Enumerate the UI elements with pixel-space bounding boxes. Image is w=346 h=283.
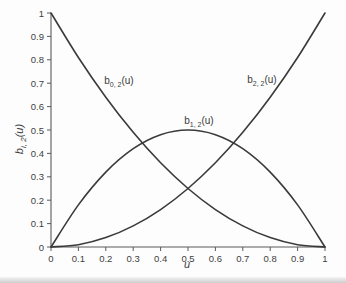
y-tick-label: 0.3 xyxy=(31,171,44,182)
x-tick-label: 0.7 xyxy=(236,253,249,264)
curve-label-arg: (u) xyxy=(201,115,213,126)
x-tick-label: 0.2 xyxy=(99,253,112,264)
y-tick-label: 0.9 xyxy=(31,31,44,42)
curve-label-b1-2: b1, 2(u) xyxy=(184,116,213,128)
x-tick-label: 0.1 xyxy=(72,253,85,264)
bernstein-basis-functions-figure: 00.10.20.30.40.50.60.70.80.9100.10.20.30… xyxy=(0,0,346,283)
y-tick-label: 0.4 xyxy=(31,148,44,159)
curve-label-arg: (u) xyxy=(121,75,133,86)
y-tick-label: 1 xyxy=(39,8,44,19)
y-tick-label: 0.2 xyxy=(31,195,44,206)
curve-label-subscript: 2, 2 xyxy=(253,80,265,87)
x-axis-title: u xyxy=(184,259,190,270)
x-tick-label: 0.6 xyxy=(209,253,222,264)
y-tick-label: 0.1 xyxy=(31,218,44,229)
y-tick-label: 0 xyxy=(39,242,44,253)
y-axis-title: bi, 2(u) xyxy=(14,124,28,154)
y-tick-label: 0.6 xyxy=(31,101,44,112)
y-axis-title-subscript: i, 2 xyxy=(19,137,28,148)
y-tick-label: 0.8 xyxy=(31,54,44,65)
x-tick-label: 0.8 xyxy=(264,253,277,264)
x-axis-title-text: u xyxy=(184,258,190,270)
curve-label-subscript: 0, 2 xyxy=(110,81,122,88)
curve-label-b0-2: b0, 2(u) xyxy=(104,76,133,88)
curve-label-arg: (u) xyxy=(264,74,276,85)
x-tick-label: 0.3 xyxy=(127,253,140,264)
y-tick-label: 0.5 xyxy=(31,125,44,136)
y-tick-label: 0.7 xyxy=(31,78,44,89)
scan-edge-artifact xyxy=(0,277,346,283)
y-axis-title-base: b xyxy=(13,148,25,154)
plot-canvas: 00.10.20.30.40.50.60.70.80.9100.10.20.30… xyxy=(0,0,346,283)
curve-label-subscript: 1, 2 xyxy=(190,121,202,128)
x-tick-label: 0 xyxy=(48,253,53,264)
curve-label-b2-2: b2, 2(u) xyxy=(247,75,276,87)
x-tick-label: 1 xyxy=(322,253,327,264)
y-axis-title-arg: (u) xyxy=(13,124,25,137)
x-tick-label: 0.4 xyxy=(154,253,167,264)
x-tick-label: 0.9 xyxy=(291,253,304,264)
